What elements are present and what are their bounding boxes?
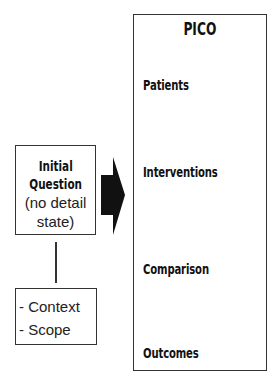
pico-box: PICO Patients Interventions Comparison O… xyxy=(133,14,267,371)
right-arrow-icon xyxy=(100,157,126,237)
pico-item-outcomes: Outcomes xyxy=(143,345,199,361)
initial-question-title-line2: Question xyxy=(16,175,95,193)
pico-item-patients: Patients xyxy=(143,77,189,93)
pico-item-comparison: Comparison xyxy=(143,261,209,277)
pico-title: PICO xyxy=(134,19,266,40)
pico-item-interventions: Interventions xyxy=(143,164,218,180)
context-scope-box: - Context - Scope xyxy=(15,288,97,345)
scope-item-context: - Context xyxy=(19,295,96,318)
initial-question-sub-line2: state) xyxy=(16,212,95,231)
initial-question-box: Initial Question (no detail state) xyxy=(15,145,96,235)
initial-question-title-line1: Initial xyxy=(16,157,95,175)
connector-line xyxy=(55,242,57,283)
scope-item-scope: - Scope xyxy=(19,318,96,341)
initial-question-sub-line1: (no detail xyxy=(16,193,95,212)
